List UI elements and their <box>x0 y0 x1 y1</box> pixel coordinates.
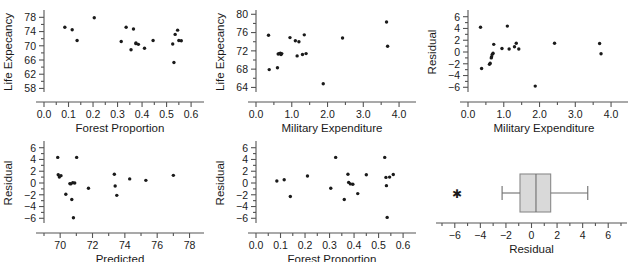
x-tick-label: 2 <box>554 229 560 241</box>
data-point <box>507 47 510 50</box>
data-point <box>70 28 73 31</box>
y-axis-label: Residual <box>214 161 226 206</box>
y-tick-label: −4 <box>24 200 36 212</box>
data-point <box>534 84 537 87</box>
scatter-plot-p5: −6−4−202460.00.10.20.30.40.50.6Forest Pr… <box>212 131 424 262</box>
x-tick-label: 4 <box>580 229 586 241</box>
y-tick-label: 68 <box>236 63 248 75</box>
data-point <box>513 45 516 48</box>
x-tick-label: 0.2 <box>298 239 313 251</box>
data-point <box>385 20 388 23</box>
data-point <box>129 48 132 51</box>
panel-residual-boxplot: ✱−6−4−20246Residual <box>424 131 635 262</box>
y-tick-label: −2 <box>236 189 248 201</box>
data-point <box>343 198 346 201</box>
y-tick-label: 6 <box>30 142 36 154</box>
y-tick-label: 70 <box>24 40 36 52</box>
data-point <box>75 39 78 42</box>
box-iqr <box>520 174 551 212</box>
x-tick-label: −4 <box>474 229 486 241</box>
y-axis-label: Life Expecancy <box>214 13 226 91</box>
x-axis-label: Forest Proportion <box>288 253 377 262</box>
data-point <box>128 177 131 180</box>
x-tick-label: 0.0 <box>37 108 52 120</box>
data-point <box>63 26 66 29</box>
x-tick-label: 0.6 <box>396 239 411 251</box>
x-tick-label: 70 <box>54 239 66 251</box>
scatter-plot-p3: −6−4−202460.01.02.03.04.0Military Expend… <box>424 0 635 131</box>
y-tick-label: 4 <box>30 153 36 165</box>
data-point <box>553 41 556 44</box>
data-point <box>303 33 306 36</box>
data-points <box>267 20 389 85</box>
y-tick-label: 2 <box>454 34 460 46</box>
data-points <box>63 16 183 64</box>
y-tick-label: 2 <box>242 165 248 177</box>
y-tick-label: 2 <box>30 165 36 177</box>
data-point <box>365 173 368 176</box>
figure-panel-grid: 5862667074780.00.10.20.30.40.50.6Forest … <box>0 0 635 262</box>
data-point <box>479 26 482 29</box>
data-point <box>517 47 520 50</box>
y-tick-label: 4 <box>242 153 248 165</box>
y-axis-label: Residual <box>426 30 438 75</box>
data-point <box>385 216 388 219</box>
scatter-plot-p1: 5862667074780.00.10.20.30.40.50.6Forest … <box>0 0 212 131</box>
x-tick-label: 3.0 <box>568 108 583 120</box>
y-tick-label: 0 <box>242 177 248 189</box>
y-tick-label: −2 <box>24 189 36 201</box>
x-tick-label: 76 <box>151 239 163 251</box>
x-tick-label: 3.0 <box>356 108 371 120</box>
y-tick-label: −6 <box>448 81 460 93</box>
panel-life-expectancy-vs-forest-proportion: 5862667074780.00.10.20.30.40.50.6Forest … <box>0 0 212 131</box>
y-tick-label: −2 <box>448 58 460 70</box>
data-point <box>93 16 96 19</box>
y-tick-label: 66 <box>24 54 36 66</box>
x-axis-label: Predicted <box>96 253 145 262</box>
data-point <box>288 36 291 39</box>
data-point <box>143 47 146 50</box>
data-points <box>56 156 175 220</box>
y-tick-label: 58 <box>24 82 36 94</box>
panel-residual-vs-predicted: −6−4−202467072747678PredictedResidual <box>0 131 212 262</box>
data-point <box>500 47 503 50</box>
y-axis-label: Life Expecancy <box>2 13 14 91</box>
data-point <box>268 68 271 71</box>
data-point <box>488 61 491 64</box>
data-point <box>69 182 72 185</box>
data-point <box>384 176 387 179</box>
data-point <box>392 173 395 176</box>
data-point <box>171 42 174 45</box>
x-tick-label: 72 <box>87 239 99 251</box>
data-point <box>278 52 281 55</box>
x-tick-label: −6 <box>449 229 461 241</box>
y-tick-label: 62 <box>24 68 36 80</box>
x-tick-label: 4.0 <box>604 108 619 120</box>
x-tick-label: −2 <box>500 229 512 241</box>
data-point <box>115 194 118 197</box>
data-point <box>75 156 78 159</box>
y-tick-label: 74 <box>24 25 36 37</box>
data-point <box>297 40 300 43</box>
x-tick-label: 1.0 <box>284 108 299 120</box>
data-point <box>267 34 270 37</box>
x-tick-label: 78 <box>184 239 196 251</box>
data-point <box>176 28 179 31</box>
x-tick-label: 0.0 <box>249 239 264 251</box>
y-tick-label: 78 <box>24 11 36 23</box>
x-tick-label: 0 <box>529 229 535 241</box>
data-point <box>180 39 183 42</box>
data-point <box>134 42 137 45</box>
data-point <box>72 216 75 219</box>
data-point <box>70 198 73 201</box>
panel-residual-vs-forest-proportion: −6−4−202460.00.10.20.30.40.50.6Forest Pr… <box>212 131 424 262</box>
x-tick-label: 0.5 <box>371 239 386 251</box>
x-tick-label: 74 <box>119 239 131 251</box>
x-tick-label: 0.3 <box>322 239 337 251</box>
y-tick-label: −4 <box>236 200 248 212</box>
x-axis-label: Residual <box>509 243 554 255</box>
data-point <box>282 178 285 181</box>
data-point <box>289 195 292 198</box>
x-tick-label: 0.3 <box>110 108 125 120</box>
x-tick-label: 0.0 <box>249 108 264 120</box>
